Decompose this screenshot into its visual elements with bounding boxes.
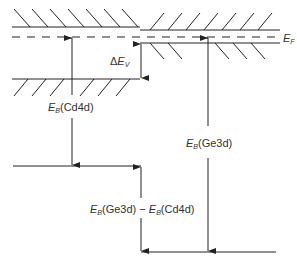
delta-ev-label: ΔEV (110, 55, 129, 71)
right-cb-hatching (150, 13, 272, 30)
band-diagram-drawing (0, 0, 297, 260)
left-cb-hatching (14, 9, 138, 27)
difference-label: EB(Ge3d) − EB(Cd4d) (90, 203, 194, 219)
fermi-level-label: EF (283, 32, 295, 48)
band-diagram: EF ΔEV EB(Cd4d) EB(Ge3d) EB(Ge3d) − EB(C… (0, 0, 297, 260)
eb-cd4d-label: EB(Cd4d) (48, 101, 94, 117)
eb-ge3d-label: EB(Ge3d) (186, 137, 232, 153)
